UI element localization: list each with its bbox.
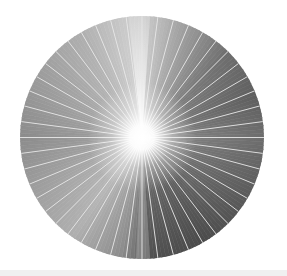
bottom-strip xyxy=(0,270,287,276)
sunburst-graphic xyxy=(20,16,264,259)
radial-burst-circle xyxy=(20,16,264,259)
center-glow xyxy=(21,16,264,259)
image-canvas xyxy=(0,0,287,276)
